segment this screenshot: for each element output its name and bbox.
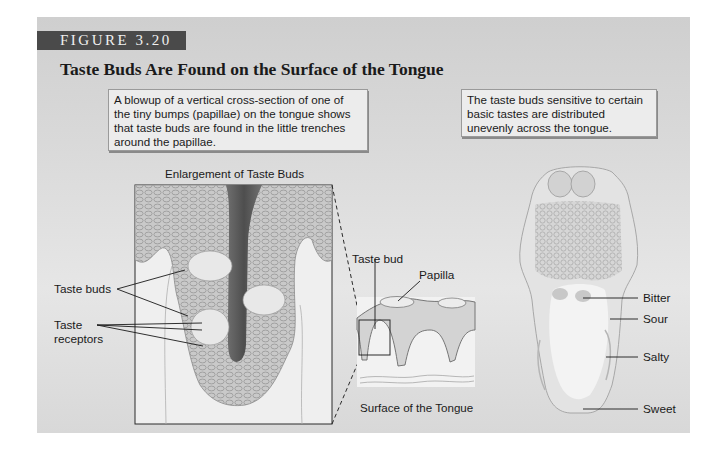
enlargement-caption: Enlargement of Taste Buds — [165, 167, 304, 180]
label-bitter: Bitter — [643, 291, 671, 305]
tongue-diagram — [520, 167, 638, 413]
label-taste-buds: Taste buds — [54, 282, 111, 296]
zoom-lines — [332, 185, 360, 424]
label-salty: Salty — [643, 350, 669, 364]
enlargement-diagram — [135, 185, 332, 424]
label-papilla: Papilla — [419, 268, 454, 282]
label-sour: Sour — [643, 312, 668, 326]
label-taste-receptors-2: receptors — [54, 332, 103, 346]
surface-caption: Surface of the Tongue — [360, 401, 473, 414]
label-taste-bud: Taste bud — [352, 252, 403, 266]
label-sweet: Sweet — [643, 402, 676, 416]
surface-diagram — [357, 259, 475, 387]
label-taste-receptors-1: Taste — [54, 318, 82, 332]
illustration — [0, 0, 720, 449]
